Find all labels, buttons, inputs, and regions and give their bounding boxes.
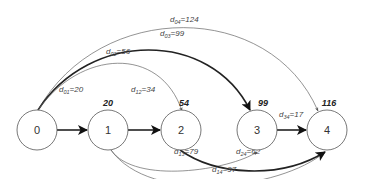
node-3: 3 [237,110,277,150]
edge-0-3 [38,50,250,110]
node-1: 1 [88,110,128,150]
edge-label-0-4: d04=124 [170,15,199,25]
node-0: 0 [17,110,57,150]
edge-label-0-2: d02=56 [106,47,131,57]
shortest-path-diagram: d04=124 d03=99 d02=56 d01=20 d12=34 d34=… [0,0,365,179]
node-label: 4 [324,124,330,136]
node-4: 4 [307,110,347,150]
edge-label-0-1: d01=20 [59,85,84,95]
node-dist-3: 99 [258,98,268,108]
edge-label-3-4: d34=17 [279,110,304,120]
node-label: 3 [254,124,260,136]
node-dist-4: 116 [322,98,337,108]
edge-label-1-2: d12=34 [131,85,156,95]
node-label: 2 [178,124,184,136]
node-dist-2: 54 [179,98,189,108]
node-dist-1: 20 [102,98,113,108]
node-label: 1 [105,124,111,136]
edge-label-1-4: d14=97 [212,165,237,175]
node-label: 0 [34,124,40,136]
node-2: 2 [161,110,201,150]
edge-label-0-3: d03=99 [160,29,185,39]
